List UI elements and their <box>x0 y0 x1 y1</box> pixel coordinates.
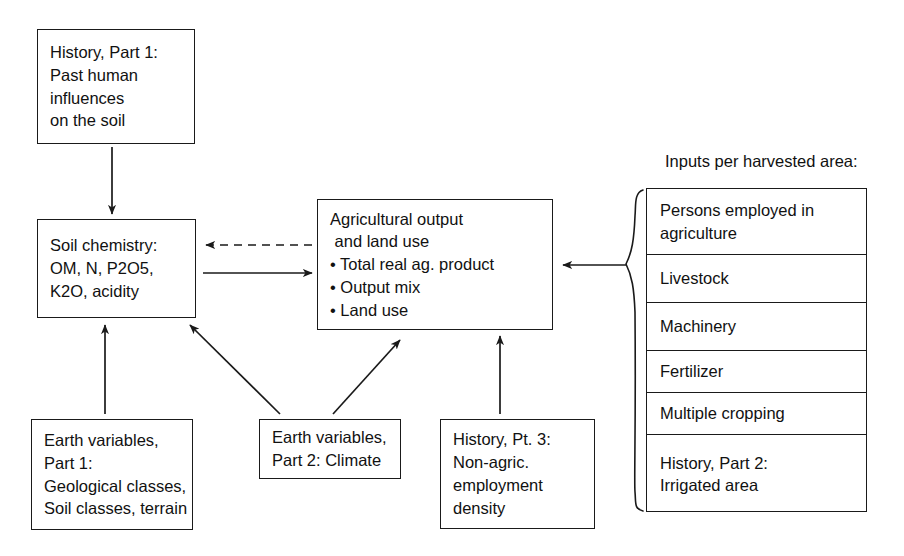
inputs-stack-row-machinery: Machinery <box>647 303 866 351</box>
inputs-brace <box>626 190 643 511</box>
box-earth-variables-part1-line-2: Part 1: <box>32 452 192 475</box>
box-history-part3-line-3: employment <box>441 474 594 497</box>
box-history-part3-line-2: Non-agric. <box>441 451 594 474</box>
box-history-part3: History, Pt. 3: Non-agric. employment de… <box>440 419 595 529</box>
diagram-canvas: History, Part 1: Past human influences o… <box>0 0 904 556</box>
box-earth-variables-part1: Earth variables, Part 1: Geological clas… <box>31 419 193 530</box>
box-earth-variables-part2-line-1: Earth variables, <box>260 426 400 449</box>
box-history-part3-line-1: History, Pt. 3: <box>441 428 594 451</box>
inputs-row-4-line-1: Fertilizer <box>660 360 866 382</box>
inputs-row-6-line-1: History, Part 2: <box>660 452 866 474</box>
inputs-stack-row-livestock: Livestock <box>647 255 866 303</box>
inputs-stack-row-history-part2: History, Part 2: Irrigated area <box>647 435 866 513</box>
box-earth-variables-part2: Earth variables, Part 2: Climate <box>259 419 401 479</box>
inputs-row-3-line-1: Machinery <box>660 315 866 337</box>
inputs-caption: Inputs per harvested area: <box>665 152 858 172</box>
inputs-stack-row-persons-employed: Persons employed in agriculture <box>647 189 866 255</box>
box-soil-chemistry-line-3: K2O, acidity <box>38 280 195 303</box>
box-earth-variables-part2-line-2: Part 2: Climate <box>260 449 400 472</box>
box-agricultural-output-bullet-3: • Land use <box>318 299 552 322</box>
box-history-part3-line-4: density <box>441 497 594 520</box>
box-history-part1-line-3: influences <box>38 87 194 110</box>
box-soil-chemistry-line-1: Soil chemistry: <box>38 234 195 257</box>
box-history-part1-line-4: on the soil <box>38 109 194 132</box>
box-earth-variables-part1-line-1: Earth variables, <box>32 429 192 452</box>
inputs-stack-row-fertilizer: Fertilizer <box>647 351 866 393</box>
inputs-stack-row-multiple-cropping: Multiple cropping <box>647 393 866 435</box>
box-agricultural-output-bullet-2: • Output mix <box>318 276 552 299</box>
box-soil-chemistry: Soil chemistry: OM, N, P2O5, K2O, acidit… <box>37 219 196 318</box>
box-history-part1-line-1: History, Part 1: <box>38 41 194 64</box>
box-history-part1-line-2: Past human <box>38 64 194 87</box>
box-agricultural-output-bullet-1: • Total real ag. product <box>318 253 552 276</box>
inputs-row-5-line-1: Multiple cropping <box>660 402 866 424</box>
box-agricultural-output-line-2: and land use <box>318 230 552 253</box>
inputs-row-6-line-2: Irrigated area <box>660 474 866 496</box>
arrow-earth2-to-agoutput <box>333 340 400 414</box>
inputs-row-2-line-1: Livestock <box>660 267 866 289</box>
box-history-part1: History, Part 1: Past human influences o… <box>37 29 195 144</box>
inputs-stack: Persons employed in agriculture Livestoc… <box>646 188 867 512</box>
box-agricultural-output: Agricultural output and land use • Total… <box>317 199 553 330</box>
box-earth-variables-part1-line-4: Soil classes, terrain <box>32 497 192 520</box>
box-agricultural-output-line-1: Agricultural output <box>318 208 552 231</box>
box-soil-chemistry-line-2: OM, N, P2O5, <box>38 257 195 280</box>
arrow-earth2-to-soil <box>190 325 280 414</box>
box-earth-variables-part1-line-3: Geological classes, <box>32 475 192 498</box>
inputs-row-1-line-1: Persons employed in <box>660 199 866 221</box>
inputs-row-1-line-2: agriculture <box>660 222 866 244</box>
